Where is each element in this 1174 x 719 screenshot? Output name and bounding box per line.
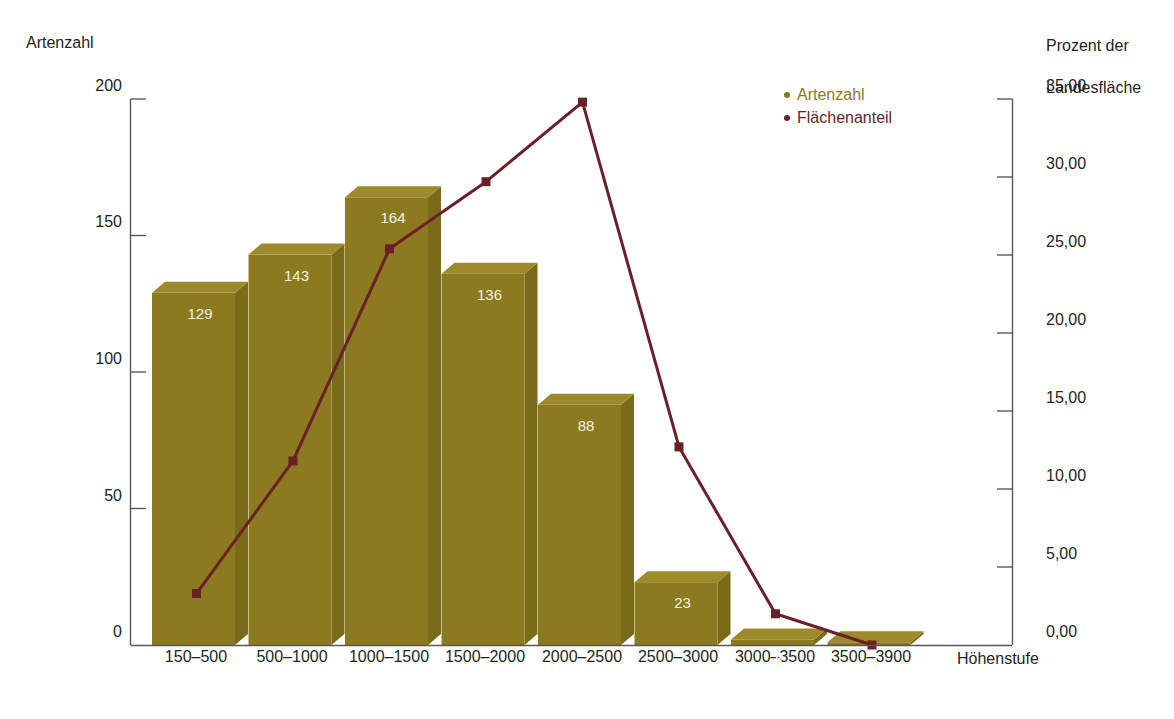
bar-front-face — [345, 197, 428, 645]
bars-group — [152, 186, 924, 645]
line-marker — [578, 98, 587, 107]
line-marker — [385, 244, 394, 253]
line-marker — [771, 609, 780, 618]
bar-top-face — [635, 571, 731, 582]
plot-area — [0, 0, 1174, 719]
line-marker — [482, 177, 491, 186]
bar-side-face — [235, 282, 248, 645]
bar-top-face — [442, 263, 538, 274]
bar-top-face — [249, 244, 345, 255]
bar-value-label: 1 — [834, 654, 917, 671]
bar-value-label: 88 — [545, 417, 628, 434]
bar-front-face — [249, 255, 332, 645]
bar-value-label: 129 — [159, 305, 242, 322]
chart-container: Artenzahl Prozent der Landesfläche Höhen… — [0, 0, 1174, 719]
bar-1500-2000 — [442, 263, 538, 645]
bar-500-1000 — [249, 244, 345, 645]
bar-front-face — [538, 405, 621, 645]
bar-value-label: 23 — [641, 594, 724, 611]
bar-value-label: 164 — [352, 209, 435, 226]
bar-front-face — [442, 274, 525, 645]
bar-1000-1500 — [345, 186, 441, 645]
bar-side-face — [525, 263, 538, 645]
line-marker — [289, 456, 298, 465]
bar-top-face — [538, 394, 634, 405]
bar-top-face — [152, 282, 248, 293]
bar-value-label: 136 — [448, 286, 531, 303]
bar-value-label: 143 — [255, 267, 338, 284]
bar-3000-3500 — [731, 629, 827, 645]
bar-front-face — [731, 640, 814, 645]
bar-top-face — [345, 186, 441, 197]
bar-side-face — [332, 244, 345, 645]
bar-value-label: 2 — [738, 652, 821, 669]
bar-top-face — [731, 629, 827, 640]
bar-front-face — [635, 582, 718, 645]
bar-side-face — [428, 186, 441, 645]
line-marker — [192, 589, 201, 598]
line-marker — [675, 442, 684, 451]
